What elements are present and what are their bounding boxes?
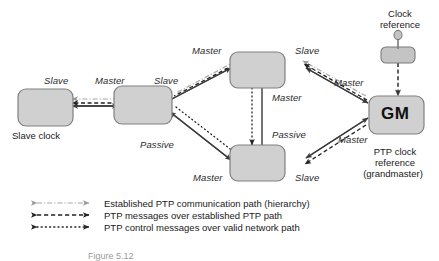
port-label-master-node1-left: Master: [95, 75, 125, 86]
node-boundary-clock-1[interactable]: [114, 86, 172, 124]
link-slaveclock-node1: [72, 99, 118, 106]
link-topnode-bottomnode: [252, 88, 262, 145]
link-node1-topnode: [170, 61, 236, 100]
port-label-slave-bottom-right: Slave: [295, 172, 319, 183]
link-dashdot: [176, 61, 236, 93]
legend-text-1: PTP messages over established PTP path: [104, 210, 282, 221]
link-solid-rev: [170, 112, 231, 160]
clock-reference-title-line1: Clock: [372, 8, 428, 19]
port-label-slave-left: Slave: [44, 75, 68, 86]
port-label-passive-bottom-top: Passive: [272, 129, 306, 140]
grandmaster-caption-line3: (grandmaster): [346, 168, 439, 179]
port-label-master-bottom-left: Master: [193, 172, 223, 183]
figure-caption: Figure 5.12: [88, 251, 134, 261]
slave-clock-caption: Slave clock: [12, 130, 60, 141]
link-dashed: [174, 65, 234, 96]
port-label-slave-top-right: Slave: [295, 45, 319, 56]
clock-reference-title-line2: reference: [362, 19, 438, 30]
link-node1-bottomnode: [170, 107, 238, 160]
antenna-base: [381, 47, 415, 63]
port-label-slave-node1-right: Slave: [154, 75, 178, 86]
link-solid-rev: [170, 68, 231, 100]
node-boundary-clock-top[interactable]: [230, 52, 285, 88]
grandmaster-label: GM: [381, 104, 409, 124]
link-dotted: [176, 107, 238, 155]
grandmaster-caption-line2: reference: [352, 157, 438, 168]
port-label-master-top-bottom: Master: [272, 92, 302, 103]
legend-swatches: [37, 203, 89, 227]
node-slave-clock[interactable]: [18, 89, 73, 126]
port-label-passive-node1-right: Passive: [140, 139, 174, 150]
grandmaster-caption-line1: PTP clock: [352, 146, 438, 157]
legend-text-2: PTP control messages over valid network …: [104, 222, 300, 233]
port-label-master-top-left: Master: [192, 45, 222, 56]
port-label-master-gm-upper: Master: [334, 77, 364, 88]
clock-reference-icon: [381, 30, 415, 63]
legend-text-0: Established PTP communication path (hier…: [104, 198, 310, 209]
antenna-dish: [394, 30, 402, 39]
port-label-master-gm-lower: Master: [338, 134, 368, 145]
node-boundary-clock-bottom[interactable]: [230, 145, 285, 181]
